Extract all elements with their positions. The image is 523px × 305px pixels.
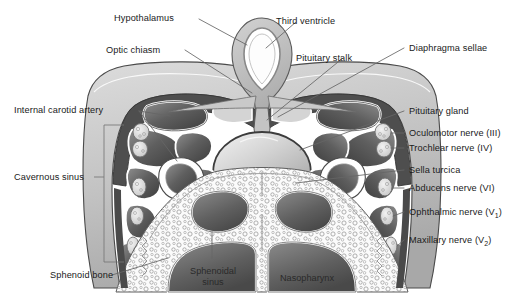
label-nasopharynx: Nasopharynx [271, 273, 343, 284]
label-sphenoidal-sinus-line2: sinus [180, 277, 246, 288]
label-sphenoidal-sinus-line1: Sphenoidal [180, 266, 246, 277]
label-third-ventricle: Third ventricle [276, 16, 335, 27]
label-optic-chiasm: Optic chiasm [106, 45, 160, 56]
label-hypothalamus: Hypothalamus [114, 13, 174, 24]
label-internal-carotid-artery: Internal carotid artery [14, 105, 103, 116]
anatomical-figure: Hypothalamus Third ventricle Optic chias… [0, 0, 523, 305]
label-trochlear-nerve: Trochlear nerve (IV) [409, 143, 492, 154]
label-ophthalmic-nerve: Ophthalmic nerve (V1) [409, 207, 502, 221]
label-ophthalmic-nerve-tail: ) [499, 207, 502, 217]
label-cavernous-sinus: Cavernous sinus [14, 172, 84, 183]
label-oculomotor-nerve: Oculomotor nerve (III) [409, 128, 501, 139]
label-ophthalmic-nerve-text: Ophthalmic nerve (V [409, 207, 495, 217]
label-diaphragma-sellae: Diaphragma sellae [409, 43, 487, 54]
label-pituitary-gland: Pituitary gland [409, 106, 469, 117]
label-pituitary-stalk: Pituitary stalk [296, 53, 352, 64]
label-abducens-nerve: Abducens nerve (VI) [409, 183, 495, 194]
label-sella-turcica: Sella turcica [409, 165, 460, 176]
label-maxillary-nerve: Maxillary nerve (V2) [409, 235, 492, 249]
label-maxillary-nerve-text: Maxillary nerve (V [409, 235, 484, 245]
label-sphenoid-bone: Sphenoid bone [50, 270, 113, 281]
label-sphenoidal-sinus: Sphenoidal sinus [180, 266, 246, 287]
label-maxillary-nerve-tail: ) [488, 235, 491, 245]
